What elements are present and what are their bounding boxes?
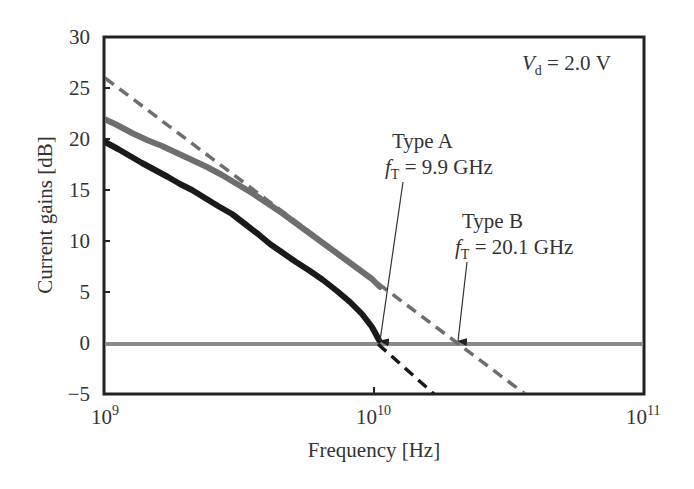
type-b-arrow — [458, 262, 467, 341]
type-a-extrapolation-line — [378, 344, 434, 394]
x-tick-1e11: 1011 — [626, 403, 660, 429]
y-tick-15: 15 — [69, 178, 90, 202]
x-tick-labels: 109 1010 1011 — [91, 403, 660, 429]
y-axis-title: Current gains [dB] — [33, 136, 57, 293]
plot-frame — [104, 37, 644, 394]
type-a-measured-curve — [105, 142, 379, 340]
x-axis-title: Frequency [Hz] — [308, 438, 440, 462]
y-tick-0: 0 — [80, 331, 91, 355]
type-b-ft-label: fT = 20.1 GHz — [455, 235, 573, 262]
type-a-label: Type A — [392, 129, 454, 153]
x-tick-1e10: 1010 — [356, 403, 391, 429]
y-tick-30: 30 — [69, 25, 90, 49]
y-tick-labels: 30 25 20 15 10 5 0 −5 — [68, 25, 90, 406]
y-tick-5: 5 — [80, 280, 91, 304]
vd-annotation: Vd = 2.0 V — [522, 51, 611, 78]
type-a-ft-label: fT = 9.9 GHz — [385, 155, 493, 182]
x-tick-1e9: 109 — [91, 403, 119, 429]
y-tick-25: 25 — [69, 76, 90, 100]
y-tick-20: 20 — [69, 127, 90, 151]
type-a-arrow — [380, 182, 403, 341]
y-tick-10: 10 — [69, 229, 90, 253]
current-gain-chart: 30 25 20 15 10 5 0 −5 109 1010 1011 Freq… — [0, 0, 694, 489]
y-tick-neg5: −5 — [68, 382, 90, 406]
type-b-label: Type B — [462, 209, 523, 233]
